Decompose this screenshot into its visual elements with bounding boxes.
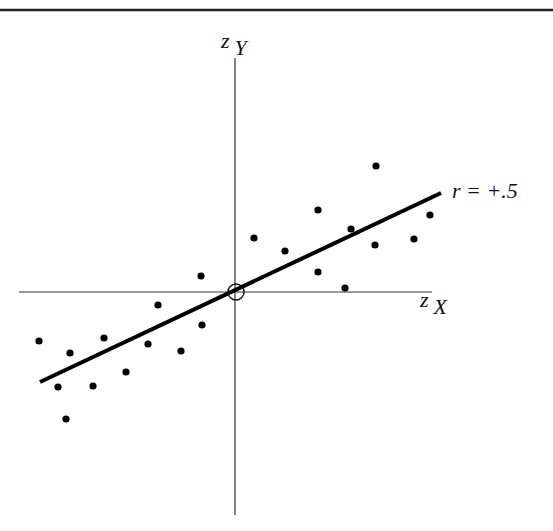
data-point bbox=[347, 225, 354, 232]
regression-line bbox=[40, 193, 441, 382]
data-point bbox=[89, 382, 96, 389]
data-point bbox=[250, 234, 257, 241]
y-axis-label: zY bbox=[220, 28, 250, 60]
data-point bbox=[314, 268, 321, 275]
data-point bbox=[314, 206, 321, 213]
data-point bbox=[281, 247, 288, 254]
data-point bbox=[371, 241, 378, 248]
data-point bbox=[54, 383, 61, 390]
data-point bbox=[35, 337, 42, 344]
data-point bbox=[122, 368, 129, 375]
scatter-chart: zY zX r = +.5 bbox=[0, 0, 553, 531]
data-point bbox=[100, 334, 107, 341]
data-point bbox=[62, 415, 69, 422]
data-point bbox=[198, 321, 205, 328]
data-point bbox=[410, 235, 417, 242]
data-point bbox=[197, 272, 204, 279]
data-point bbox=[341, 284, 348, 291]
data-point bbox=[177, 347, 184, 354]
data-point bbox=[154, 301, 161, 308]
data-point bbox=[66, 349, 73, 356]
data-point bbox=[372, 162, 379, 169]
x-axis-label: zX bbox=[419, 287, 449, 319]
data-point bbox=[144, 340, 151, 347]
correlation-label: r = +.5 bbox=[452, 178, 518, 203]
data-point bbox=[426, 211, 433, 218]
